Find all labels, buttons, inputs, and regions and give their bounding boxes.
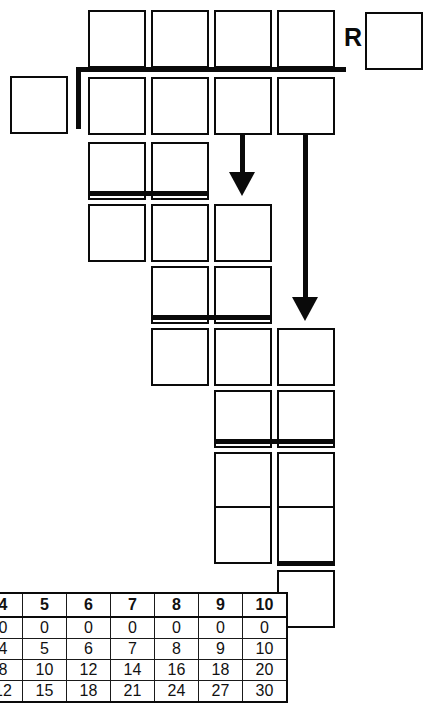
subtraction-rule-4	[277, 561, 335, 566]
table-cell: 15	[23, 681, 67, 703]
table-header-cell: 6	[67, 593, 111, 617]
table-row: 12 15 18 21 24 27 30	[0, 681, 287, 703]
table-header-cell: 10	[243, 593, 288, 617]
table-cell: 10	[243, 639, 288, 660]
bring-down-arrow-2-shaft	[303, 133, 308, 310]
work-row-6-box-1[interactable]	[214, 452, 272, 510]
subtraction-rule-3	[214, 439, 335, 444]
quotient-box-2[interactable]	[151, 10, 209, 68]
dividend-box-1[interactable]	[88, 77, 146, 135]
table-cell: 8	[155, 639, 199, 660]
table-cell: 18	[67, 681, 111, 703]
table-cell: 0	[67, 617, 111, 639]
table-row: 4 5 6 7 8 9 10	[0, 639, 287, 660]
table-cell: 9	[199, 639, 243, 660]
table-cell: 10	[23, 660, 67, 681]
division-bracket-vertical	[76, 67, 81, 129]
table-cell: 14	[111, 660, 155, 681]
divisor-box[interactable]	[10, 76, 68, 134]
remainder-label: R	[344, 25, 362, 50]
table-header-cell: 7	[111, 593, 155, 617]
table-cell: 12	[0, 681, 23, 703]
table-header-cell: 5	[23, 593, 67, 617]
table-cell: 20	[243, 660, 288, 681]
work-row-4-box-2[interactable]	[214, 328, 272, 386]
work-row-2-box-1[interactable]	[88, 204, 146, 262]
table-cell: 30	[243, 681, 288, 703]
quotient-box-4[interactable]	[277, 10, 335, 68]
table-cell: 0	[155, 617, 199, 639]
table-cell: 4	[0, 639, 23, 660]
table-row: 8 10 12 14 16 18 20	[0, 660, 287, 681]
bring-down-arrow-2-head	[292, 297, 318, 321]
table-header-cell: 8	[155, 593, 199, 617]
bring-down-arrow-1-head	[229, 172, 255, 196]
multiplication-table-body: 4 5 6 7 8 9 10 0 0 0 0 0 0 0 4 5 6 7	[0, 593, 287, 702]
remainder-box[interactable]	[365, 12, 423, 70]
table-cell: 0	[111, 617, 155, 639]
table-cell: 6	[67, 639, 111, 660]
dividend-box-2[interactable]	[151, 77, 209, 135]
table-cell: 24	[155, 681, 199, 703]
dividend-box-4[interactable]	[277, 77, 335, 135]
multiplication-table: 4 5 6 7 8 9 10 0 0 0 0 0 0 0 4 5 6 7	[0, 592, 288, 703]
table-cell: 0	[23, 617, 67, 639]
work-row-7-box-2[interactable]	[277, 506, 335, 564]
table-cell: 0	[243, 617, 288, 639]
table-cell: 8	[0, 660, 23, 681]
table-cell: 0	[0, 617, 23, 639]
table-row: 0 0 0 0 0 0 0	[0, 617, 287, 639]
table-cell: 16	[155, 660, 199, 681]
work-row-6-box-2[interactable]	[277, 452, 335, 510]
work-row-2-box-2[interactable]	[151, 204, 209, 262]
table-cell: 7	[111, 639, 155, 660]
table-cell: 18	[199, 660, 243, 681]
dividend-box-3[interactable]	[214, 77, 272, 135]
subtraction-rule-1	[88, 191, 209, 196]
table-cell: 21	[111, 681, 155, 703]
work-row-4-box-3[interactable]	[277, 328, 335, 386]
subtraction-rule-2	[151, 315, 272, 320]
work-row-4-box-1[interactable]	[151, 328, 209, 386]
work-row-7-box-1[interactable]	[214, 506, 272, 564]
quotient-box-1[interactable]	[88, 10, 146, 68]
division-bracket-horizontal	[76, 67, 346, 72]
table-cell: 27	[199, 681, 243, 703]
table-cell: 0	[199, 617, 243, 639]
table-header-cell: 4	[0, 593, 23, 617]
quotient-box-3[interactable]	[214, 10, 272, 68]
table-cell: 5	[23, 639, 67, 660]
table-cell: 12	[67, 660, 111, 681]
work-row-2-box-3[interactable]	[214, 204, 272, 262]
table-header-row: 4 5 6 7 8 9 10	[0, 593, 287, 617]
table-header-cell: 9	[199, 593, 243, 617]
